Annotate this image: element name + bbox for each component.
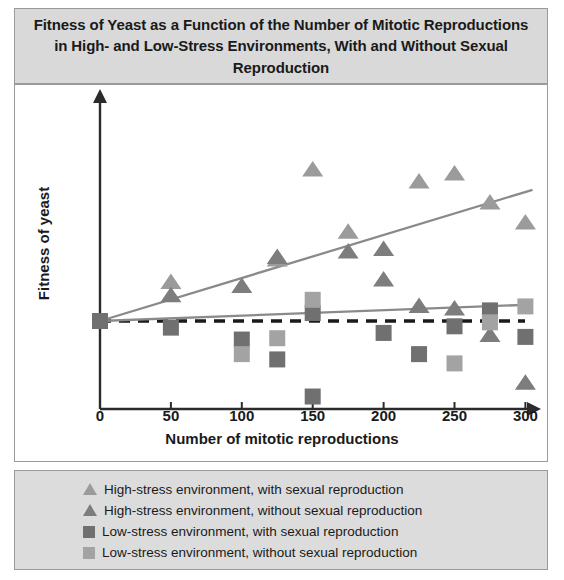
data-point-square xyxy=(269,330,285,346)
legend-item[interactable]: High-stress environment, without sexual … xyxy=(15,500,547,521)
data-point-triangle xyxy=(338,243,359,258)
triangle-icon xyxy=(83,483,97,495)
triangle-icon xyxy=(83,504,97,516)
x-tick-label: 150 xyxy=(293,407,333,424)
x-tick-label: 0 xyxy=(80,407,120,424)
data-point-triangle xyxy=(373,271,394,287)
data-point-square xyxy=(411,346,427,362)
legend-panel: High-stress environment, with sexual rep… xyxy=(14,470,548,570)
data-point-triangle xyxy=(409,173,430,189)
data-point-triangle xyxy=(479,194,500,210)
legend-item[interactable]: Low-stress environment, without sexual r… xyxy=(15,542,547,563)
y-axis-label: Fitness of yeast xyxy=(35,154,52,334)
data-point-triangle xyxy=(160,274,181,290)
x-axis-label: Number of mitotic reproductions xyxy=(15,430,548,447)
x-tick-label: 200 xyxy=(364,407,404,424)
scatter-plot xyxy=(15,85,547,461)
legend-item-label: High-stress environment, without sexual … xyxy=(104,503,422,518)
square-icon xyxy=(83,547,95,559)
data-point-triangle xyxy=(409,297,430,313)
chart-title-panel: Fitness of Yeast as a Function of the Nu… xyxy=(14,8,548,84)
page-title: Fitness of Yeast as a Function of the Nu… xyxy=(15,14,547,78)
x-tick-label: 300 xyxy=(505,407,545,424)
data-point-triangle xyxy=(515,214,536,230)
data-point-square xyxy=(447,355,463,371)
x-tick-label: 100 xyxy=(222,407,262,424)
data-point-square xyxy=(517,298,533,314)
data-point-square xyxy=(482,314,498,330)
plot-panel: Fitness of yeast Number of mitotic repro… xyxy=(14,84,548,462)
data-point-triangle xyxy=(302,161,323,177)
data-point-square xyxy=(269,351,285,367)
legend-item[interactable]: Low-stress environment, with sexual repr… xyxy=(15,521,547,542)
x-tick-label: 50 xyxy=(151,407,191,424)
data-point-square xyxy=(234,332,250,348)
data-point-square xyxy=(376,325,392,341)
data-point-square xyxy=(447,318,463,334)
legend-item-label: Low-stress environment, without sexual r… xyxy=(102,545,417,560)
data-point-triangle xyxy=(160,287,181,303)
data-point-triangle xyxy=(373,240,394,256)
data-point-square xyxy=(234,346,250,362)
data-point-square xyxy=(92,313,108,329)
data-point-triangle xyxy=(444,165,465,181)
data-point-triangle xyxy=(515,374,536,390)
legend-item-label: Low-stress environment, with sexual repr… xyxy=(102,524,398,539)
data-point-square xyxy=(517,329,533,345)
data-point-triangle xyxy=(338,223,359,239)
square-icon xyxy=(83,526,95,538)
legend-item[interactable]: High-stress environment, with sexual rep… xyxy=(15,479,547,500)
data-point-triangle xyxy=(267,248,288,264)
data-point-square xyxy=(163,320,179,336)
x-tick-label: 250 xyxy=(435,407,475,424)
legend-item-label: High-stress environment, with sexual rep… xyxy=(104,482,403,497)
figure-container: Fitness of Yeast as a Function of the Nu… xyxy=(0,0,564,580)
data-point-square xyxy=(305,292,321,308)
data-point-square xyxy=(305,389,321,405)
